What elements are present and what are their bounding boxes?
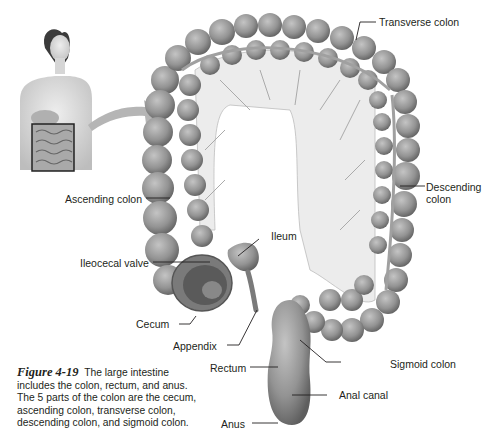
appendix bbox=[248, 272, 256, 310]
label-anal-canal: Anal canal bbox=[339, 389, 388, 401]
rectum bbox=[268, 300, 311, 425]
figure-number: Figure 4-19 bbox=[17, 365, 78, 379]
label-ileum: Ileum bbox=[271, 230, 297, 242]
label-ascending-colon: Ascending colon bbox=[65, 193, 142, 205]
label-appendix: Appendix bbox=[173, 340, 217, 352]
descending-colon bbox=[369, 90, 420, 292]
figure-caption: Figure 4-19 The large intestine includes… bbox=[17, 366, 197, 430]
cecum bbox=[172, 255, 232, 311]
ileum bbox=[228, 243, 259, 310]
label-sigmoid-colon: Sigmoid colon bbox=[390, 358, 456, 370]
body-inset-figure bbox=[20, 29, 92, 171]
label-transverse-colon: Transverse colon bbox=[379, 16, 459, 28]
label-rectum: Rectum bbox=[210, 362, 246, 374]
label-ileocecal-valve: Ileocecal valve bbox=[80, 257, 149, 269]
label-descending-colon-line2: colon bbox=[426, 193, 481, 205]
label-descending-colon: Descending colon bbox=[426, 181, 481, 205]
label-cecum: Cecum bbox=[136, 318, 169, 330]
label-anus: Anus bbox=[221, 418, 245, 430]
label-descending-colon-line1: Descending bbox=[426, 181, 481, 193]
